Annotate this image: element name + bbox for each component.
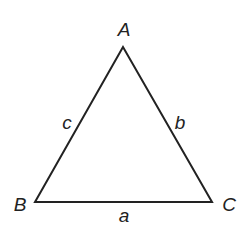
- side-label-c: c: [62, 112, 72, 133]
- triangle-diagram: A B C c b a: [0, 0, 246, 232]
- side-label-b: b: [175, 112, 186, 133]
- vertex-label-c: C: [222, 194, 236, 215]
- vertex-label-a: A: [117, 19, 131, 40]
- vertex-label-b: B: [14, 194, 27, 215]
- side-label-a: a: [119, 205, 130, 226]
